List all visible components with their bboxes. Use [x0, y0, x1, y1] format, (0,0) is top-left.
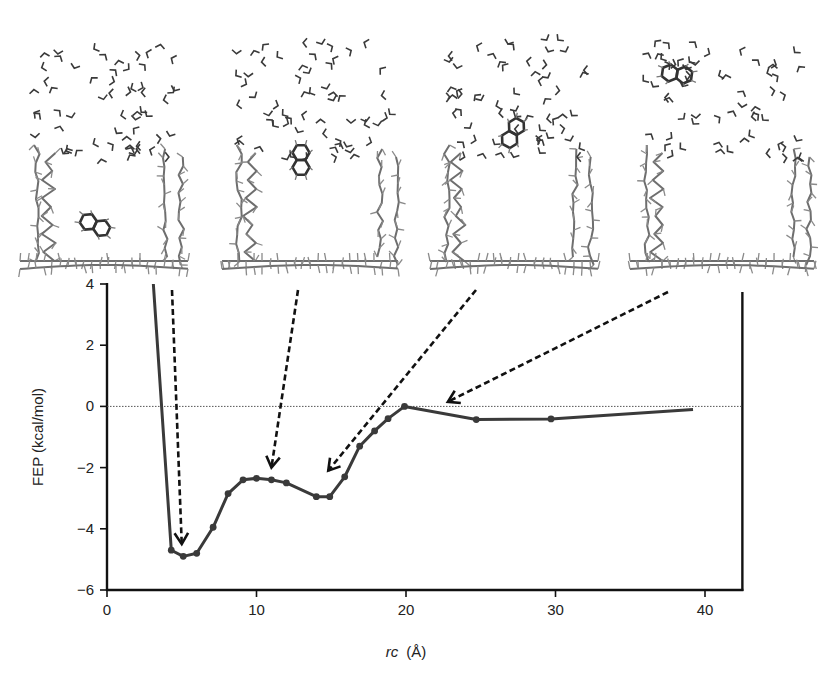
data-point — [180, 553, 187, 560]
water-molecule — [511, 152, 520, 157]
h-bond-stub — [493, 253, 494, 261]
data-point — [283, 480, 290, 487]
molecular-snapshots — [19, 34, 818, 277]
data-point — [356, 443, 363, 450]
water-molecule — [382, 112, 387, 121]
h-bond-stub — [655, 209, 656, 216]
water-molecule — [338, 96, 345, 102]
water-molecule — [538, 147, 546, 153]
h-bond-stub — [256, 243, 263, 245]
water-molecule — [232, 50, 241, 54]
water-molecule — [93, 138, 98, 147]
water-molecule — [327, 44, 332, 52]
y-tick-label: −4 — [77, 520, 94, 537]
water-molecule — [115, 60, 124, 65]
water-molecule — [778, 142, 783, 151]
water-molecule — [237, 100, 242, 109]
water-molecule — [326, 63, 332, 70]
h-bond-stub — [20, 253, 21, 261]
h-bond-stub — [326, 265, 327, 273]
water-molecule — [794, 135, 802, 140]
h-bond-stub — [663, 243, 665, 250]
h-bond-stub — [702, 257, 703, 265]
water-molecule — [545, 47, 554, 52]
water-molecule — [127, 155, 135, 161]
h-bond-stub — [188, 253, 189, 261]
water-molecule — [135, 51, 139, 60]
h-bond-stub — [801, 225, 807, 229]
water-molecule — [560, 46, 568, 51]
h-bond-stub — [430, 261, 432, 269]
water-molecule — [751, 107, 760, 111]
water-molecule — [97, 159, 106, 164]
h-bond-stub — [478, 253, 480, 261]
water-molecule — [663, 42, 670, 49]
h-bond-stub — [581, 246, 588, 247]
data-point — [168, 547, 175, 554]
water-molecule — [541, 34, 549, 40]
naphthalene-ligand — [656, 60, 699, 88]
h-bond-stub — [587, 151, 591, 157]
water-molecule — [126, 87, 131, 96]
water-molecule — [539, 77, 544, 86]
h-bond-stub — [399, 202, 406, 204]
water-molecule — [302, 111, 307, 120]
water-molecule — [54, 50, 63, 54]
h-bond-stub — [148, 266, 149, 274]
h-bond-stub — [598, 253, 599, 261]
water-molecule — [655, 40, 662, 47]
water-molecule — [50, 88, 58, 94]
h-bond-stub — [786, 235, 792, 239]
water-molecule — [692, 118, 700, 124]
water-molecule — [781, 143, 786, 152]
h-bond-stub — [782, 259, 783, 267]
water-molecule — [54, 56, 62, 62]
water-molecule — [244, 73, 253, 77]
h-bond-stub — [740, 265, 742, 273]
ring-h — [106, 235, 111, 239]
h-bond-stub — [750, 265, 753, 273]
x-tick-label: 20 — [398, 601, 415, 618]
y-tick-label: 0 — [86, 397, 94, 414]
water-molecule — [156, 134, 160, 143]
h-bond-stub — [461, 240, 468, 243]
water-molecule — [273, 100, 278, 109]
water-molecule — [346, 48, 351, 57]
arrow-shaft — [172, 290, 182, 544]
h-bond-stub — [381, 234, 386, 239]
water-molecule — [366, 137, 371, 146]
h-bond-stub — [510, 257, 511, 265]
water-molecule — [107, 143, 113, 151]
h-bond-stub — [436, 268, 438, 276]
water-molecule — [122, 137, 131, 141]
h-bond-stub — [74, 258, 76, 266]
arrow-shaft — [328, 290, 476, 471]
h-bond-stub — [389, 235, 395, 238]
water-molecule — [134, 127, 140, 135]
water-molecule — [75, 151, 82, 157]
water-molecule — [66, 113, 75, 118]
data-point — [341, 473, 348, 480]
water-molecule — [762, 114, 769, 120]
water-molecule — [277, 51, 283, 59]
h-bond-stub — [811, 247, 818, 248]
x-tick-label: 10 — [248, 601, 265, 618]
h-bond-stub — [449, 220, 452, 226]
water-molecule — [539, 124, 546, 130]
water-molecule — [666, 132, 672, 140]
aromatic-ring — [661, 64, 678, 83]
h-bond-stub — [183, 179, 188, 184]
h-bond-stub — [177, 153, 183, 157]
water-molecule — [30, 133, 39, 137]
h-bond-stub — [391, 175, 398, 176]
snapshot-panel-1 — [19, 43, 190, 277]
h-bond-stub — [51, 267, 52, 275]
arrowhead-icon — [328, 458, 340, 471]
naphthalene-ligand — [72, 206, 118, 244]
h-bond-stub — [718, 265, 719, 273]
h-bond-stub — [742, 253, 744, 261]
h-bond-stub — [486, 253, 488, 261]
water-molecule — [303, 68, 311, 74]
chain — [572, 149, 577, 257]
water-molecule — [54, 126, 63, 131]
